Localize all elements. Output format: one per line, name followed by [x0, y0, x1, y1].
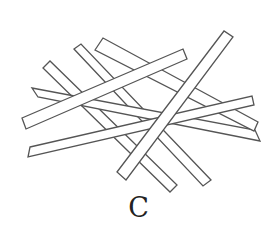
sticks-group: [22, 31, 260, 192]
figure-caption: C: [0, 193, 277, 223]
